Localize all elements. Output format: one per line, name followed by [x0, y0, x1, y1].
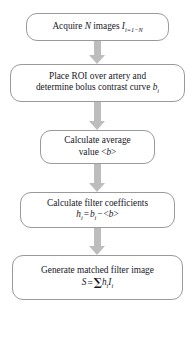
arrow-head: [89, 121, 105, 130]
acquire-subscript: i=1−N: [125, 25, 143, 32]
node-line-coefficients-1: Calculate filter coefficients: [47, 198, 148, 210]
flowchart-node-acquire-images: Acquire N images Ii=1−N: [26, 13, 169, 41]
acquire-text-pre: Acquire: [52, 21, 84, 31]
generate-equals: =: [86, 278, 93, 288]
node-line-average-1: Calculate average: [64, 135, 130, 147]
average-text-pre: value <: [79, 147, 107, 157]
arrow-shaft: [94, 228, 101, 246]
arrow-head: [89, 55, 105, 64]
arrow-down-icon-4: [89, 228, 106, 255]
average-text-post: >: [111, 147, 116, 157]
flowchart-node-calculate-filter-coefficients: Calculate filter coefficients hi=bi−<b>: [20, 192, 175, 228]
coeff-tail-post: >: [114, 209, 119, 219]
node-line-coefficients-equation: hi=bi−<b>: [76, 209, 119, 222]
roi-subscript: i: [157, 87, 159, 94]
flowchart-node-calculate-average: Calculate average value <b>: [40, 130, 155, 164]
flowchart-node-generate-matched-filter-image: Generate matched filter image S=∑hiIi: [12, 255, 183, 300]
coeff-minus: −: [96, 209, 103, 219]
node-line-place-roi-1: Place ROI over artery and: [49, 71, 146, 83]
node-line-generate-1: Generate matched filter image: [41, 265, 154, 277]
node-line-acquire-images: Acquire N images Ii=1−N: [52, 21, 142, 34]
node-line-place-roi-2: determine bolus contrast curve bi: [36, 82, 159, 95]
arrow-shaft: [94, 164, 101, 183]
flowchart-node-place-roi: Place ROI over artery and determine bolu…: [10, 64, 185, 102]
arrow-down-icon-3: [89, 164, 106, 192]
coeff-equals: =: [83, 209, 90, 219]
generate-term2-sub: i: [111, 282, 113, 289]
arrow-head: [89, 246, 105, 255]
arrow-down-icon-1: [89, 41, 106, 64]
acquire-text-mid: images: [91, 21, 122, 31]
arrow-shaft: [94, 41, 101, 55]
node-line-average-2: value <b>: [79, 147, 117, 159]
arrow-down-icon-2: [89, 102, 106, 130]
roi-text-pre: determine bolus contrast curve: [36, 82, 153, 92]
node-line-generate-equation: S=∑hiIi: [82, 276, 113, 290]
arrow-head: [89, 183, 105, 192]
summation-icon: ∑: [94, 276, 102, 289]
arrow-shaft: [94, 102, 101, 121]
flowchart-diagram: Acquire N images Ii=1−N Place ROI over a…: [0, 0, 195, 356]
